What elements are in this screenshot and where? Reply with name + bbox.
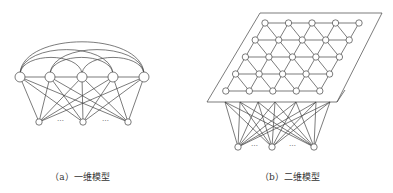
two-dimensional-model	[207, 13, 382, 150]
output-neuron	[326, 71, 332, 77]
output-neuron	[45, 72, 55, 82]
caption-a: （a）一维模型	[50, 170, 109, 183]
output-neuron	[139, 72, 149, 82]
input-neuron	[80, 119, 86, 125]
output-neuron	[356, 20, 362, 26]
input-neuron	[36, 119, 42, 125]
output-neuron	[77, 72, 87, 82]
output-neuron	[336, 54, 342, 60]
input-neuron	[125, 119, 131, 125]
output-neuron	[266, 54, 272, 60]
input-neuron	[311, 144, 317, 150]
output-neuron	[232, 71, 238, 77]
ellipsis-b-1: …	[251, 140, 259, 148]
output-neuron	[246, 88, 252, 94]
output-neuron	[252, 37, 258, 43]
neural-network-diagram	[0, 0, 393, 193]
output-neuron	[313, 54, 319, 60]
output-neuron	[317, 88, 323, 94]
output-neuron	[262, 20, 268, 26]
output-neuron	[323, 37, 329, 43]
output-neuron	[276, 37, 282, 43]
output-neuron	[289, 54, 295, 60]
output-neuron	[285, 20, 291, 26]
output-neuron	[293, 88, 299, 94]
ellipsis-a-1: …	[57, 115, 65, 123]
output-neuron	[256, 71, 262, 77]
output-neuron	[15, 72, 25, 82]
ellipsis-b-2: …	[289, 140, 297, 148]
input-neuron	[235, 144, 241, 150]
output-neuron	[303, 71, 309, 77]
output-neuron	[242, 54, 248, 60]
output-neuron	[108, 72, 118, 82]
output-neuron	[270, 88, 276, 94]
output-neuron	[299, 37, 305, 43]
one-dimensional-model	[15, 42, 149, 125]
caption-b: （b）二维模型	[260, 170, 320, 183]
ellipsis-a-2: …	[102, 115, 110, 123]
input-neuron	[269, 144, 275, 150]
output-neuron	[309, 20, 315, 26]
output-neuron	[279, 71, 285, 77]
output-neuron	[332, 20, 338, 26]
output-neuron	[346, 37, 352, 43]
output-neuron	[223, 88, 229, 94]
